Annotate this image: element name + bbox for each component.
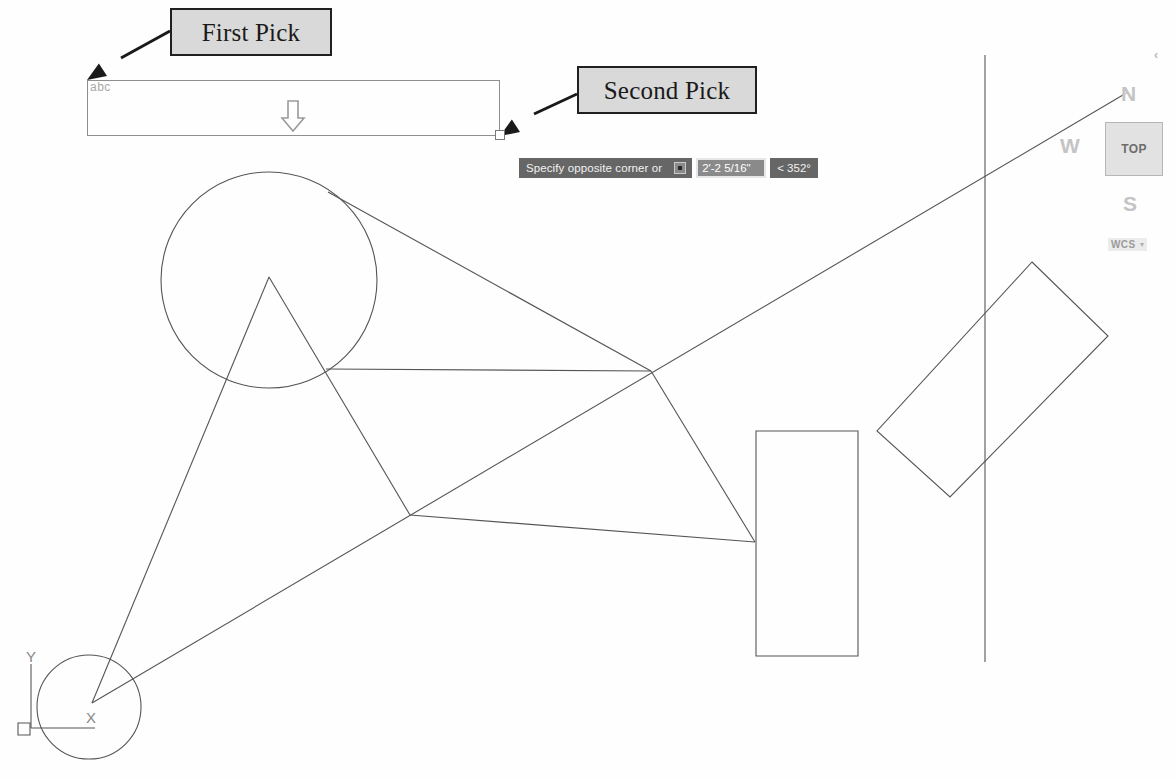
viewcube-face-label: TOP (1121, 142, 1147, 156)
pickbox-marker[interactable] (495, 130, 505, 140)
distance-input-value: 2'-2 5/16" (702, 162, 750, 174)
angle-input-value: < 352° (777, 162, 811, 174)
wcs-label: WCS (1111, 239, 1136, 250)
down-arrow-icon (277, 98, 309, 134)
chord-mid[interactable] (326, 369, 651, 371)
upper-circle[interactable] (161, 172, 377, 388)
rotated-rectangle[interactable] (877, 262, 1108, 497)
wcs-selector[interactable]: WCS ▾ (1108, 238, 1147, 251)
options-square-icon[interactable] (674, 162, 686, 174)
chevron-down-icon: ▾ (1140, 241, 1144, 249)
triangle-peak-line-left[interactable] (92, 277, 269, 703)
callout-second-pick: Second Pick (577, 66, 757, 114)
selection-label: abc (90, 80, 111, 94)
distance-input[interactable]: 2'-2 5/16" (696, 158, 766, 178)
command-prompt: Specify opposite corner or (519, 158, 692, 178)
angle-input[interactable]: < 352° (770, 158, 818, 178)
ucs-x-axis-label: X (86, 709, 96, 726)
command-prompt-text: Specify opposite corner or (526, 162, 662, 174)
ucs-origin-box[interactable] (18, 723, 30, 735)
callout-first-pick: First Pick (170, 8, 332, 56)
dynamic-input-tooltip[interactable]: Specify opposite corner or 2'-2 5/16" < … (519, 158, 818, 178)
long-diagonal[interactable] (92, 92, 1128, 703)
lower-left-to-rect[interactable] (410, 515, 755, 542)
viewcube[interactable]: N W S TOP WCS ▾ (1050, 80, 1176, 270)
corner-glyph: ‹ (1154, 48, 1158, 62)
compass-west-label[interactable]: W (1060, 134, 1080, 158)
callout-first-pick-label: First Pick (202, 20, 301, 45)
first-pick-arrow-head (87, 63, 107, 80)
ucs-y-axis-label: Y (26, 648, 36, 665)
compass-north-label[interactable]: N (1121, 82, 1136, 106)
tall-rectangle[interactable] (756, 431, 858, 656)
second-pick-arrow-line (534, 94, 577, 114)
callout-second-pick-label: Second Pick (604, 78, 731, 103)
cad-drawing-area[interactable]: abc First Pick Second Pick Specify oppos… (0, 0, 1176, 778)
vertex-to-lower-right[interactable] (651, 371, 755, 542)
viewcube-top-face[interactable]: TOP (1105, 122, 1163, 176)
triangle-peak-line-right[interactable] (269, 277, 410, 515)
compass-south-label[interactable]: S (1123, 192, 1137, 216)
ucs-origin-circle[interactable] (37, 655, 141, 759)
first-pick-arrow-line (121, 31, 170, 58)
